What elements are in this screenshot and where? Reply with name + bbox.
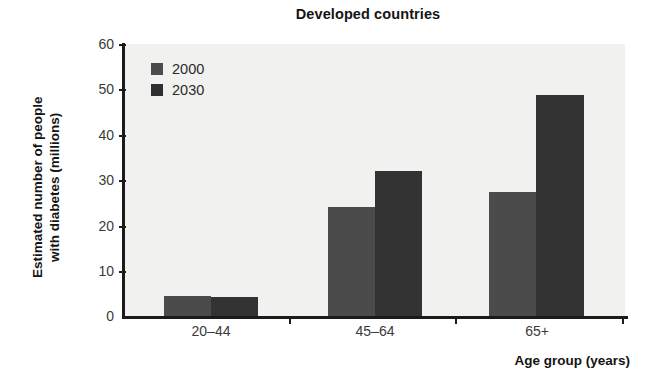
y-tick-mark-40 [119,135,126,137]
x-tick-label-65-plus: 65+ [477,323,597,339]
y-tick-mark-20 [119,226,126,228]
legend-swatch-2030-icon [151,84,163,96]
y-tick-mark-50 [119,89,126,91]
x-tick-label-20-44: 20–44 [151,323,271,339]
x-tick-mark-3 [622,317,624,324]
y-tick-mark-60 [119,44,126,46]
bar-2030-20-44 [211,297,258,316]
legend-entry-2000: 2000 [151,58,204,79]
chart-title: Developed countries [200,6,536,22]
y-axis-title: Estimated number of people with diabetes… [29,37,64,337]
x-tick-mark-2 [455,317,457,324]
y-tick-label-0: 0 [78,308,114,324]
y-tick-label-60: 60 [78,36,114,52]
y-tick-label-30: 30 [78,172,114,188]
y-tick-label-20: 20 [78,218,114,234]
y-tick-label-50: 50 [78,81,114,97]
legend-entry-2030: 2030 [151,79,204,100]
y-tick-label-40: 40 [78,127,114,143]
x-axis-line [122,316,628,319]
y-tick-mark-10 [119,271,126,273]
legend-label-2030: 2030 [172,82,204,98]
bar-2000-65-plus [489,192,536,316]
bar-2000-20-44 [164,296,211,316]
x-tick-label-45-64: 45–64 [315,323,435,339]
x-tick-mark-1 [289,317,291,324]
bar-2030-65-plus [536,95,584,316]
y-tick-mark-30 [119,180,126,182]
bar-2030-45-64 [375,171,422,316]
legend-label-2000: 2000 [172,61,204,77]
bar-2000-45-64 [328,207,375,316]
legend-swatch-2000-icon [151,63,163,75]
y-axis-title-line-1: Estimated number of people [29,37,46,337]
y-tick-label-10: 10 [78,263,114,279]
chart-legend: 2000 2030 [151,58,204,100]
x-axis-title: Age group (years) [330,353,630,368]
y-axis-title-line-2: with diabetes (millions) [46,37,63,337]
